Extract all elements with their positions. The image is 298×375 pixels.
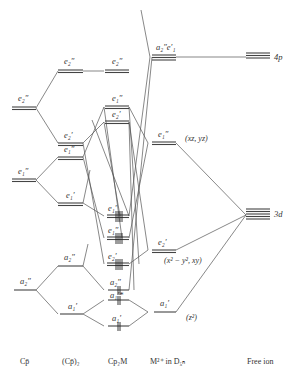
label-m-a1p: a₁′ [160,298,169,308]
label-cp2m-a1p-star: a₁′* [110,290,124,300]
label-cp-e2pp: e₂″ [18,93,29,103]
label-cp2m-e1pp-lo: e₁″ [108,225,119,235]
label-4p: 4p [274,52,283,62]
column-labels: Cp̄ (Cp̄)₂ Cp₂M M²⁺ in D₅ₕ Free ion [20,357,273,366]
level-cp2m-e2pp [105,70,129,73]
level-3d [246,209,270,219]
level-cp2-e1p [58,203,83,206]
label-cp2m-e2p-hi: e₂′ [112,109,121,119]
level-cp-e1pp [12,179,36,182]
level-m-e2p [152,250,176,253]
label-cp-a2pp: a₂″ [20,276,31,286]
label-cp2m-e2p-lo: e₂′ [108,251,117,261]
label-cp2m-a1p: a₁′ [112,313,121,323]
level-cp2-e1pp [58,157,83,160]
column-label-m-d5h: M²⁺ in D₅ₕ [150,357,185,366]
annotation-z2: (z²) [186,313,197,322]
label-cp2-a1p: a₁′ [68,301,77,311]
level-labels: e₂″ e₁″ a₂″ e₂″ e₂′ e₁″ e₁′ a₂″ a₁′ e₂″ … [18,42,283,323]
annotation-xz-yz: (xz, yz) [185,134,208,143]
column-label-cp: Cp̄ [20,357,29,366]
label-cp-e1pp: e₁″ [18,166,29,176]
column-label-cp2: (Cp̄)₂ [62,357,80,366]
column-label-cp2m: Cp₂M [108,357,127,366]
level-m-e1pp [152,142,176,145]
label-cp2m-e1p: e₁′ [108,203,117,213]
annotation-x2y2-xy: (x² − y², xy) [164,256,202,265]
label-cp2m-e1pp-hi: e₁″ [112,93,123,103]
column-label-free-ion: Free ion [247,357,273,366]
levels-free-ion [246,53,270,219]
levels-metal [152,55,176,312]
label-m-a2pp-e1p: a₂″e′₁ [156,42,175,52]
mo-diagram: e₂″ e₁″ a₂″ e₂″ e₂′ e₁″ e₁′ a₂″ a₁′ e₂″ … [0,0,298,375]
label-m-e2p: e₂′ [158,237,167,247]
level-m-a2pp-e1p [152,55,176,60]
label-cp2m-e2pp: e₂″ [112,56,123,66]
levels-cp [12,107,36,290]
label-3d: 3d [273,209,283,219]
label-cp2-a2pp: a₂″ [64,252,75,262]
level-4p [246,53,270,58]
label-cp2-e1p: e₁′ [66,190,75,200]
electrons-e2p-lo [116,259,122,270]
label-cp2m-a2pp: a₂″ [110,277,121,287]
level-cp-e2pp [12,107,36,110]
label-m-e1pp: e₁″ [158,129,169,139]
label-cp2-e2p: e₂′ [64,130,73,140]
level-cp2m-e2p-hi [105,121,129,124]
level-cp2-e2pp [58,70,83,73]
label-cp2-e2pp: e₂″ [64,56,75,66]
label-cp2-e1pp: e₁″ [64,144,75,154]
